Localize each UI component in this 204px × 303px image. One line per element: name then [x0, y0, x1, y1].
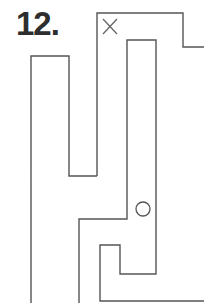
maze-wall-outer-top	[97, 13, 204, 176]
x-mark-icon	[103, 19, 117, 34]
circle-marker-icon	[136, 202, 150, 216]
maze-diagram	[0, 0, 204, 303]
maze-wall-left-box	[31, 56, 97, 303]
maze-wall-inner-left	[79, 40, 156, 303]
maze-wall-inner-bottom	[100, 245, 204, 301]
